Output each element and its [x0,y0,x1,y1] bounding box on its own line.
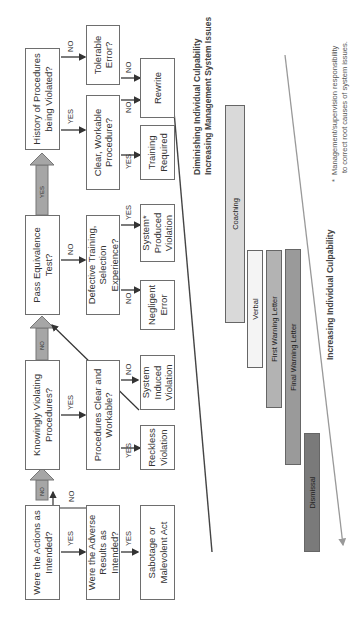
label-no-fat-2: NO [39,341,45,350]
bar-coaching: Coaching [225,105,245,323]
fat-arrow-pass-to-history [30,153,54,215]
upper-axis-label: Diminishing Individual Culpability Incre… [192,17,214,175]
bar-verbal-label: Verbal [251,298,260,319]
bar-final-warning: Final Warning Letter [285,249,301,465]
decision-knowingly-violating: Knowingly Violating Procedures? [25,360,60,470]
decision-defective-training: Defective Training, Selection Experience… [86,215,120,315]
decision-procedures-clear: Procedures Clear and Workable? [86,360,120,470]
bar-verbal: Verbal [247,250,263,368]
footnote-line1: Management/supervision responsibility [330,46,339,175]
bar-first-warning-label: First Warning Letter [270,296,279,362]
footnote: * Management/supervision responsibility … [330,41,350,182]
label-no-clear: NO [124,364,133,375]
label-no-adverse: NO [67,491,76,502]
bar-dismissal-label: Dismissal [308,476,317,508]
label-no-workable: NO [124,102,133,113]
outcome-system-induced: System Induced Violation [140,355,175,410]
label-no-fat-1: NO [39,487,45,496]
label-yes-clear: YES [124,443,133,458]
footnote-marker: * [330,179,339,182]
label-yes-fat-3: YES [39,186,45,198]
upper-axis-line2: Increasing Management System Issues [203,17,214,175]
outcome-reckless: Reckless Violation [140,425,175,470]
footnote-line2: to correct root causes of system issues. [340,41,350,182]
decision-pass-equivalence: Pass Equivalence Test? [25,215,60,315]
bar-coaching-label: Coaching [231,198,240,230]
decision-history-violated: History of Procedures being Violated? [25,48,60,150]
bar-dismissal: Dismissal [304,433,320,552]
decision-clear-workable: Clear, Workable Procedure? [86,95,120,190]
bar-first-warning: First Warning Letter [266,250,282,408]
label-yes-workable: YES [124,154,133,169]
outcome-sabotage: Sabotage or Malevolent Act [140,505,175,600]
label-no-tolerable: NO [124,62,133,73]
upper-axis-line1: Diminishing Individual Culpability [192,17,203,175]
label-yes-knowing: YES [66,395,75,410]
just-culture-diagram: Were the Actions as Intended? Knowingly … [0,0,364,620]
decision-actions-intended: Were the Actions as Intended? [25,505,60,600]
label-no-defective: NO [124,293,133,304]
lower-axis-label: Increasing Individual Culpability [325,230,336,360]
bar-final-warning-label: Final Warning Letter [289,323,298,390]
label-yes-adverse: YES [124,531,133,546]
label-no-pass: NO [66,244,75,255]
label-no-history: NO [66,41,75,52]
fat-arrow-knowing-to-pass [30,316,54,360]
label-yes-history: YES [66,109,75,124]
outcome-negligent: Negligent Error [140,280,175,330]
outcome-system-produced: System* Produced Violation [140,204,175,262]
outcome-training-required: Training Required [140,125,175,180]
decision-adverse-results: Were the Adverse Results as Intended? [86,505,120,600]
decision-tolerable-error: Tolerable Error? [86,25,120,85]
label-yes-actions: YES [66,531,75,546]
label-yes-defective: YES [124,205,133,220]
outcome-rewrite: Rewrite [140,58,175,118]
